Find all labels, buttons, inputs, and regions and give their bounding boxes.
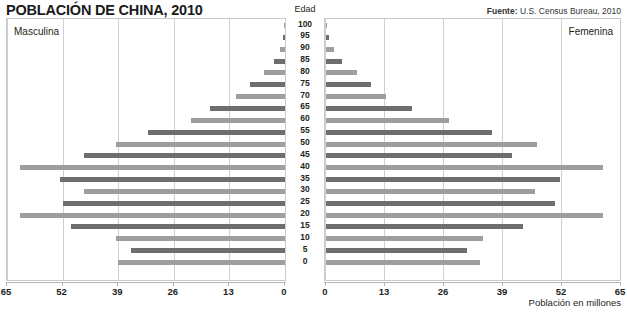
male-tick-label-0: 0 <box>281 286 286 297</box>
bar-male-age-90 <box>280 47 285 52</box>
female-plot-area <box>324 18 621 281</box>
bar-female-age-35 <box>326 177 560 182</box>
bar-male-age-80 <box>264 70 285 75</box>
female-tick-label-13: 13 <box>379 286 390 297</box>
bar-female-age-100 <box>326 23 327 28</box>
bar-female-age-15 <box>326 224 523 229</box>
bar-female-age-85 <box>326 59 342 64</box>
bar-male-age-55 <box>148 130 285 135</box>
page-title: POBLACIÓN DE CHINA, 2010 <box>6 2 203 18</box>
male-plot-area <box>6 18 286 281</box>
age-label-65: 65 <box>286 102 324 110</box>
age-label-90: 90 <box>286 43 324 51</box>
age-label-60: 60 <box>286 114 324 122</box>
bar-male-age-45 <box>84 153 285 158</box>
age-label-85: 85 <box>286 55 324 63</box>
gridline <box>502 19 503 280</box>
bar-female-age-70 <box>326 94 386 99</box>
female-x-axis-line <box>324 282 621 283</box>
age-label-30: 30 <box>286 185 324 193</box>
source-text: U.S. Census Bureau, 2010 <box>518 6 621 16</box>
age-label-40: 40 <box>286 162 324 170</box>
age-label-100: 100 <box>286 20 324 28</box>
bar-male-age-10 <box>116 236 285 241</box>
bar-male-age-60 <box>191 118 285 123</box>
bar-female-age-5 <box>326 248 467 253</box>
bar-female-age-0 <box>326 260 480 265</box>
bar-female-age-20 <box>326 213 603 218</box>
gridline <box>620 19 621 280</box>
age-label-70: 70 <box>286 91 324 99</box>
bar-male-age-75 <box>250 82 285 87</box>
bar-female-age-75 <box>326 82 371 87</box>
bar-male-age-15 <box>71 224 285 229</box>
male-tick-label-26: 26 <box>168 286 179 297</box>
bar-male-age-30 <box>84 189 285 194</box>
age-label-10: 10 <box>286 233 324 241</box>
bar-female-age-45 <box>326 153 512 158</box>
bar-male-age-100 <box>284 23 285 28</box>
gridline <box>561 19 562 280</box>
age-axis: Edad 10095908580757065605550454035302520… <box>286 18 324 281</box>
bar-female-age-90 <box>326 47 334 52</box>
age-axis-title: Edad <box>286 4 324 14</box>
bar-male-age-25 <box>63 201 285 206</box>
male-side-label: Masculina <box>14 26 59 37</box>
gridline <box>63 19 64 280</box>
female-side-label: Femenina <box>569 26 613 37</box>
bar-female-age-10 <box>326 236 483 241</box>
bar-male-age-70 <box>236 94 285 99</box>
bar-male-age-5 <box>131 248 285 253</box>
bar-female-age-40 <box>326 165 603 170</box>
bar-female-age-25 <box>326 201 555 206</box>
male-tick-label-52: 52 <box>56 286 67 297</box>
age-label-0: 0 <box>286 257 324 265</box>
bar-male-age-0 <box>118 260 285 265</box>
female-tick-label-65: 65 <box>615 286 626 297</box>
age-label-75: 75 <box>286 79 324 87</box>
female-tick-label-39: 39 <box>497 286 508 297</box>
female-tick-label-0: 0 <box>322 286 327 297</box>
age-label-45: 45 <box>286 150 324 158</box>
bar-female-age-30 <box>326 189 535 194</box>
male-x-axis-line <box>6 282 286 283</box>
age-label-95: 95 <box>286 31 324 39</box>
female-tick-label-52: 52 <box>556 286 567 297</box>
bar-male-age-65 <box>210 106 285 111</box>
age-label-15: 15 <box>286 221 324 229</box>
male-tick-label-13: 13 <box>223 286 234 297</box>
bar-female-age-95 <box>326 35 329 40</box>
source-attribution: Fuente: U.S. Census Bureau, 2010 <box>487 6 621 16</box>
bar-male-age-85 <box>274 59 285 64</box>
bar-male-age-40 <box>20 165 285 170</box>
bar-male-age-35 <box>60 177 285 182</box>
bar-male-age-50 <box>116 142 285 147</box>
age-label-20: 20 <box>286 209 324 217</box>
bar-female-age-50 <box>326 142 537 147</box>
bar-female-age-80 <box>326 70 357 75</box>
age-label-5: 5 <box>286 245 324 253</box>
age-label-50: 50 <box>286 138 324 146</box>
female-tick-label-26: 26 <box>438 286 449 297</box>
age-label-55: 55 <box>286 126 324 134</box>
bar-female-age-65 <box>326 106 412 111</box>
gridline <box>7 19 8 280</box>
age-label-35: 35 <box>286 174 324 182</box>
male-tick-label-39: 39 <box>112 286 123 297</box>
bar-female-age-60 <box>326 118 449 123</box>
age-label-80: 80 <box>286 67 324 75</box>
source-prefix: Fuente: <box>487 6 518 16</box>
age-label-25: 25 <box>286 197 324 205</box>
male-tick-label-65: 65 <box>1 286 12 297</box>
population-pyramid-chart: POBLACIÓN DE CHINA, 2010 Fuente: U.S. Ce… <box>0 0 627 313</box>
bar-male-age-20 <box>20 213 285 218</box>
bar-female-age-55 <box>326 130 492 135</box>
x-axis-label: Población en millones <box>0 297 621 308</box>
bar-male-age-95 <box>283 35 285 40</box>
